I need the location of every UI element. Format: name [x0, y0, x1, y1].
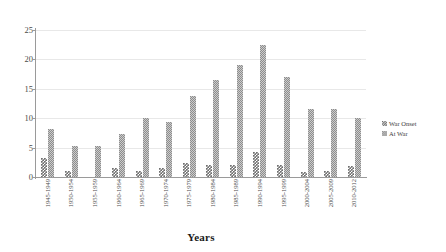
y-tick-mark [32, 89, 35, 90]
x-label-cell: 1990-1994 [248, 179, 272, 227]
bar-at-war [95, 146, 101, 177]
y-axis-ticks: 25 20 15 10 5 0 [0, 0, 33, 252]
bar-war-onset [253, 152, 259, 177]
bar-war-onset [65, 171, 71, 177]
bar-at-war [237, 65, 243, 177]
bar-war-onset [41, 158, 47, 177]
bar-war-onset [159, 168, 165, 177]
bar-group [343, 30, 367, 177]
y-tick-mark [32, 30, 35, 31]
bar-war-onset [230, 165, 236, 177]
bar-chart: 25 20 15 10 5 0 1945-19491950-19541955-1… [0, 0, 446, 252]
bar-at-war [308, 109, 314, 177]
bar-war-onset [136, 171, 142, 177]
x-tick-label: 1980-1984 [209, 179, 217, 207]
x-label-cell: 1985-1989 [225, 179, 249, 227]
legend-label: War Onset [389, 120, 416, 127]
checkered-swatch-icon [382, 121, 387, 126]
y-tick-label: 20 [7, 55, 33, 63]
x-label-cell: 1960-1964 [107, 179, 131, 227]
bar-war-onset [277, 165, 283, 177]
x-tick-label: 1965-1969 [138, 179, 146, 207]
y-tick-mark [32, 59, 35, 60]
x-label-cell: 1980-1984 [201, 179, 225, 227]
x-tick-label: 1945-1949 [44, 179, 52, 207]
bar-at-war [119, 134, 125, 178]
x-label-cell: 1950-1954 [60, 179, 84, 227]
x-axis-title: Years [36, 231, 366, 243]
bar-at-war [355, 118, 361, 177]
chart-legend: War Onset At War [382, 120, 446, 140]
bar-at-war [166, 122, 172, 177]
y-tick-mark [32, 118, 35, 119]
x-label-cell: 2005-2009 [319, 179, 343, 227]
y-tick-label: 15 [7, 85, 33, 93]
hatched-swatch-icon [382, 131, 387, 136]
x-tick-label: 1990-1994 [256, 179, 264, 207]
bar-group [130, 30, 154, 177]
x-tick-label: 2005-2009 [327, 179, 335, 207]
bar-group [201, 30, 225, 177]
bar-at-war [190, 96, 196, 177]
bar-group [295, 30, 319, 177]
x-axis-line [35, 177, 367, 178]
x-tick-label: 1950-1954 [67, 179, 75, 207]
x-label-cell: 1970-1974 [154, 179, 178, 227]
x-tick-label: 1970-1974 [162, 179, 170, 207]
x-tick-label: 1960-1964 [115, 179, 123, 207]
bar-war-onset [348, 166, 354, 177]
bar-group [36, 30, 60, 177]
bar-group [319, 30, 343, 177]
bar-group [177, 30, 201, 177]
x-tick-label: 2010-2012 [350, 179, 358, 207]
bar-at-war [72, 146, 78, 177]
bar-at-war [331, 109, 337, 177]
bar-group [154, 30, 178, 177]
bar-group [248, 30, 272, 177]
bar-group [83, 30, 107, 177]
bar-war-onset [183, 163, 189, 177]
x-tick-label: 1975-1979 [185, 179, 193, 207]
bar-at-war [284, 77, 290, 177]
x-label-cell: 2010-2012 [343, 179, 367, 227]
bar-group [60, 30, 84, 177]
x-tick-label: 1985-1989 [232, 179, 240, 207]
x-label-cell: 1965-1969 [130, 179, 154, 227]
bar-group [272, 30, 296, 177]
bar-at-war [48, 129, 54, 177]
y-tick-mark [32, 148, 35, 149]
legend-label: At War [389, 130, 408, 137]
x-label-cell: 1975-1979 [177, 179, 201, 227]
bar-at-war [143, 118, 149, 177]
x-label-cell: 1945-1949 [36, 179, 60, 227]
x-label-cell: 2000-2004 [295, 179, 319, 227]
y-tick-label: 10 [7, 114, 33, 122]
y-tick-label: 0 [7, 173, 33, 181]
bar-group [107, 30, 131, 177]
x-axis-labels: 1945-19491950-19541955-19591960-19641965… [36, 179, 366, 227]
y-tick-label: 25 [7, 26, 33, 34]
bar-at-war [213, 80, 219, 177]
legend-item-at-war: At War [382, 130, 446, 137]
bar-at-war [260, 45, 266, 177]
x-tick-label: 1955-1959 [91, 179, 99, 207]
y-tick-label: 5 [7, 144, 33, 152]
bar-war-onset [206, 165, 212, 177]
x-tick-label: 2000-2004 [303, 179, 311, 207]
y-tick-mark [32, 177, 35, 178]
legend-item-war-onset: War Onset [382, 120, 446, 127]
bar-war-onset [112, 168, 118, 177]
bar-war-onset [301, 172, 307, 177]
bar-group [225, 30, 249, 177]
x-label-cell: 1995-1999 [272, 179, 296, 227]
bar-series-container [36, 30, 366, 177]
x-tick-label: 1995-1999 [280, 179, 288, 207]
x-label-cell: 1955-1959 [83, 179, 107, 227]
bar-war-onset [324, 171, 330, 177]
